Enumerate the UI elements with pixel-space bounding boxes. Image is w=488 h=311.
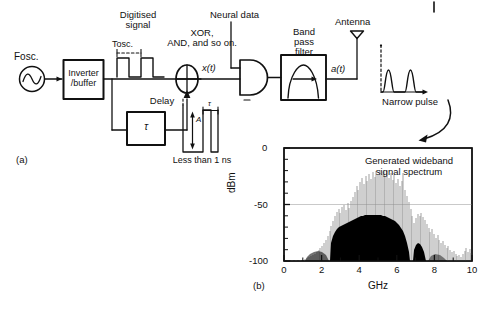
chart-xtick-6: 6 <box>390 265 404 275</box>
bpf-response-curve <box>288 65 319 98</box>
neural-data-label: Neural data <box>210 10 259 20</box>
narrow-pulse-label: Narrow pulse <box>372 97 448 107</box>
chart-xtick-4: 4 <box>352 265 366 275</box>
antenna-label: Antenna <box>335 17 370 27</box>
chart-ylabel: dBm <box>227 172 237 193</box>
chart-ytick--100: -100 <box>249 256 268 266</box>
figure-container: Fosc. Inverter /buffer Digitised signal … <box>0 0 488 311</box>
chart-xlabel: GHz <box>348 281 408 291</box>
pulse-detail-waveform <box>183 105 218 152</box>
chart-ytick--50: -50 <box>254 200 268 210</box>
chart-xtick-10: 10 <box>464 265 480 275</box>
panel-b-label: (b) <box>253 281 265 291</box>
chart-xtick-0: 0 <box>277 265 291 275</box>
delay-label: Delay <box>133 96 191 106</box>
panel-a-label: (a) <box>16 155 28 165</box>
callout-arrowhead <box>419 135 428 143</box>
arrowhead-osc-inverter <box>57 77 63 82</box>
x-of-t-label: x(t) <box>202 63 216 73</box>
logic-operations-label: XOR, AND, and so on. <box>157 28 247 48</box>
less-than-1ns-label: Less than 1 ns <box>160 155 244 165</box>
delay-tau-symbol: τ <box>127 122 165 132</box>
chart-xtick-2: 2 <box>315 265 329 275</box>
inverter-buffer-label: Inverter /buffer <box>64 68 104 88</box>
oscillator-sine-icon <box>23 74 41 84</box>
pulse-axis-top-dot <box>380 44 382 46</box>
digitised-signal-label: Digitised signal <box>107 10 169 30</box>
narrow-pulse-waveform <box>381 70 423 92</box>
inverter-buffer-text: Inverter /buffer <box>68 68 99 88</box>
amplitude-arrow-up <box>190 112 195 118</box>
oscillator-label: Fosc. <box>14 52 38 62</box>
and-gate-symbol <box>240 60 267 95</box>
a-of-t-label: a(t) <box>331 64 345 74</box>
pulse-axis-arrowhead <box>423 90 429 95</box>
digitised-square-wave <box>117 58 164 77</box>
tosc-label: Tosc. <box>112 39 133 49</box>
pulse-tau-label: τ <box>208 99 211 109</box>
amplitude-arrow-down <box>190 144 195 150</box>
amplitude-A-label: A <box>196 115 201 125</box>
band-pass-filter-label: Band pass filter <box>282 27 326 57</box>
chart-xtick-8: 8 <box>427 265 441 275</box>
chart-title: Generated wideband signal spectrum <box>350 155 468 177</box>
chart-ytick-0: 0 <box>262 143 267 153</box>
